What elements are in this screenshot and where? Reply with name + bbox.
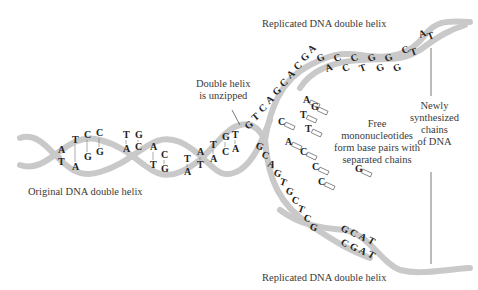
free-nucleotide-letter: C xyxy=(300,146,307,157)
free-nucleotide-stem xyxy=(306,115,317,123)
free-nucleotide-letter: G xyxy=(311,101,319,112)
base-letter: T xyxy=(150,159,157,170)
base-letter: T xyxy=(197,159,204,170)
free-nucleotide-letter: C xyxy=(278,116,285,127)
free-nucleotide-stem xyxy=(318,167,329,175)
base-letter: G xyxy=(96,146,104,157)
base-letter: A xyxy=(72,161,80,172)
label-free-mononucleotides: Free mononucleotides form base pairs wit… xyxy=(334,118,420,166)
base-letter: A xyxy=(232,143,240,154)
free-nucleotide-stem xyxy=(284,122,295,130)
free-nucleotide-stem xyxy=(306,152,317,160)
base-letter: T xyxy=(58,156,65,167)
base-letter: G xyxy=(161,163,169,174)
free-nucleotide-letter: C xyxy=(312,161,319,172)
base-letter: G xyxy=(374,61,385,74)
free-nucleotide-letter: T xyxy=(305,123,312,134)
free-nucleotide-letter: T xyxy=(300,109,307,120)
free-nucleotide-stem xyxy=(311,129,322,137)
base-letter: A xyxy=(184,166,192,177)
base-letter: A xyxy=(197,146,205,157)
dna-replication-diagram: ATTACGCGTAGCATCGTAATTAGCTAGTCAGCACGAGACC… xyxy=(0,0,478,290)
free-nucleotide-letter: A xyxy=(285,136,293,147)
base-letter: A xyxy=(210,153,218,164)
base-letter: C xyxy=(222,146,229,157)
base-letter: G xyxy=(135,129,143,140)
free-nucleotide-letter: A xyxy=(303,94,311,105)
base-letter: C xyxy=(161,149,168,160)
base-letter: G xyxy=(222,131,230,142)
base-letter: A xyxy=(58,144,66,155)
base-letter: T xyxy=(184,153,191,164)
label-replicated-top: Replicated DNA double helix xyxy=(262,18,387,30)
base-letter: T xyxy=(425,29,435,42)
base-letter: T xyxy=(210,139,217,150)
label-unzipped: Double helix is unzipped xyxy=(196,78,251,102)
base-letter: C xyxy=(135,141,142,152)
base-letter: T xyxy=(357,61,367,74)
base-letter: C xyxy=(96,127,103,138)
base-letter: A xyxy=(123,143,131,154)
label-newly-synthesized: Newly synthesized chains of DNA xyxy=(410,100,459,148)
label-original-helix: Original DNA double helix xyxy=(28,186,143,198)
base-letter: A xyxy=(150,141,158,152)
leader-line-unzipped xyxy=(232,110,240,125)
base-letter: T xyxy=(232,129,239,140)
base-letter: T xyxy=(72,134,79,145)
free-nucleotide-stem xyxy=(324,182,335,190)
free-nucleotide-stem xyxy=(361,169,372,177)
base-letter: T xyxy=(123,129,130,140)
free-nucleotide-stem xyxy=(317,107,328,115)
base-letter: T xyxy=(249,110,261,123)
base-letter: C xyxy=(84,129,91,140)
base-letter: G xyxy=(84,151,92,162)
label-replicated-bottom: Replicated DNA double helix xyxy=(262,272,387,284)
free-nucleotide-letter: C xyxy=(318,176,325,187)
base-letter: G xyxy=(391,61,402,74)
